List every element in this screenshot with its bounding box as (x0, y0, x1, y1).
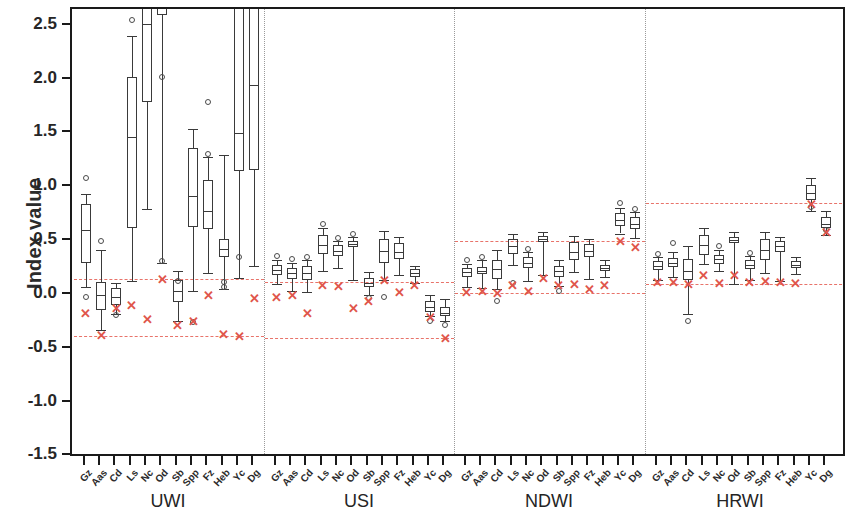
y-tick-mark (62, 400, 70, 402)
measured-value-marker: ✕ (363, 295, 374, 308)
x-tick-mark (113, 456, 115, 465)
whisker-cap-upper (668, 252, 678, 253)
measured-value-marker: ✕ (157, 272, 168, 285)
median-line (142, 24, 152, 25)
measured-value-marker: ✕ (668, 275, 679, 288)
measured-value-marker: ✕ (188, 314, 199, 327)
whisker-cap-upper (219, 155, 229, 156)
whisker-cap-lower (683, 314, 693, 315)
y-tick-label: 0.5 (5, 229, 57, 249)
group-label: NDWI (525, 491, 573, 512)
whisker-cap-upper (318, 228, 328, 229)
whisker-cap-lower (584, 279, 594, 280)
whisker-cap-lower (127, 281, 137, 282)
group-separator (645, 9, 646, 456)
whisker-upper (101, 250, 102, 282)
outlier-point (685, 318, 691, 324)
median-line (287, 273, 297, 274)
whisker-upper (86, 194, 87, 205)
whisker-cap-lower (81, 287, 91, 288)
whisker-lower (704, 255, 705, 264)
whisker-upper (132, 36, 133, 77)
x-tick-mark (716, 456, 718, 465)
whisker-cap-upper (630, 212, 640, 213)
outlier-point (381, 294, 387, 300)
x-tick-mark (251, 456, 253, 465)
outlier-point (350, 231, 356, 237)
whisker-cap-upper (379, 231, 389, 232)
y-tick-mark (62, 130, 70, 132)
median-line (668, 263, 678, 264)
x-tick-mark (701, 456, 703, 465)
measured-value-marker: ✕ (394, 285, 405, 298)
median-line (554, 271, 564, 272)
x-tick-mark (747, 456, 749, 465)
whisker-upper (224, 155, 225, 239)
median-line (523, 263, 533, 264)
whisker-cap-lower (394, 275, 404, 276)
x-tick-mark (655, 456, 657, 465)
x-tick-mark (479, 456, 481, 465)
median-line (699, 245, 709, 246)
measured-value-marker: ✕ (630, 241, 641, 254)
whisker-lower (338, 256, 339, 268)
measured-value-marker: ✕ (96, 328, 107, 341)
whisker-cap-upper (477, 260, 487, 261)
measured-value-marker: ✕ (569, 278, 580, 291)
whisker-cap-upper (173, 271, 183, 272)
whisker-cap-lower (630, 238, 640, 239)
x-tick-mark (221, 456, 223, 465)
x-tick-mark (525, 456, 527, 465)
outlier-point (205, 151, 211, 157)
box (188, 148, 198, 227)
x-tick-mark (808, 456, 810, 465)
median-line (600, 268, 610, 269)
whisker-cap-lower (234, 278, 244, 279)
y-tick-label: 2.5 (5, 14, 57, 34)
median-line (425, 307, 435, 308)
whisker-lower (277, 275, 278, 284)
measured-value-marker: ✕ (249, 292, 260, 305)
reference-line (74, 279, 264, 280)
whisker-upper (193, 129, 194, 148)
whisker-cap-upper (760, 232, 770, 233)
x-tick-mark (335, 456, 337, 465)
whisker-cap-upper (615, 208, 625, 209)
whisker-cap-upper (203, 157, 213, 158)
y-tick-mark (62, 184, 70, 186)
whisker-cap-upper (714, 250, 724, 251)
median-line (760, 250, 770, 251)
median-line (364, 283, 374, 284)
whisker-cap-lower (508, 265, 518, 266)
x-tick-mark (159, 456, 161, 465)
measured-value-marker: ✕ (652, 275, 663, 288)
whisker-cap-upper (364, 272, 374, 273)
median-line (477, 271, 487, 272)
measured-value-marker: ✕ (379, 273, 390, 286)
box (157, 7, 167, 15)
median-line (111, 297, 121, 298)
whisker-cap-upper (127, 36, 137, 37)
x-tick-mark (632, 456, 634, 465)
x-tick-mark (731, 456, 733, 465)
x-tick-mark (670, 456, 672, 465)
x-tick-mark (274, 456, 276, 465)
median-line (683, 271, 693, 272)
whisker-cap-lower (188, 291, 198, 292)
whisker-lower (239, 171, 240, 278)
group-label: USI (344, 491, 374, 512)
outlier-point (464, 257, 470, 263)
whisker-cap-upper (683, 246, 693, 247)
median-line (729, 240, 739, 241)
outlier-point (655, 251, 661, 257)
x-tick-mark (510, 456, 512, 465)
whisker-upper (384, 231, 385, 239)
x-tick-mark (205, 456, 207, 465)
whisker-cap-upper (333, 241, 343, 242)
whisker-cap-upper (745, 256, 755, 257)
box (234, 7, 244, 171)
measured-value-marker: ✕ (599, 279, 610, 292)
y-tick-mark (62, 292, 70, 294)
whisker-cap-lower (302, 292, 312, 293)
whisker-lower (193, 227, 194, 291)
